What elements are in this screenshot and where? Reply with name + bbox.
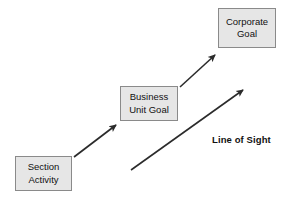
node-section-activity-line-1: Section: [28, 161, 60, 174]
node-business-unit-goal-line-1: Business: [130, 91, 169, 104]
node-section-activity-line-2: Activity: [28, 174, 58, 187]
node-business-unit-goal-line-2: Unit Goal: [129, 104, 169, 117]
node-section-activity[interactable]: Section Activity: [15, 156, 72, 191]
label-line-of-sight: Line of Sight: [212, 134, 271, 145]
arrow-business-unit-goal-to-corporate-goal: [180, 55, 215, 87]
node-corporate-goal[interactable]: Corporate Goal: [218, 8, 276, 48]
node-business-unit-goal[interactable]: Business Unit Goal: [120, 86, 178, 121]
cropped-caption-text: [0, 199, 289, 206]
arrow-section-to-business-unit-goal: [74, 125, 116, 157]
node-corporate-goal-line-2: Goal: [237, 28, 257, 41]
diagram-canvas: Corporate Goal Business Unit Goal Sectio…: [0, 0, 289, 206]
node-corporate-goal-line-1: Corporate: [226, 16, 268, 29]
